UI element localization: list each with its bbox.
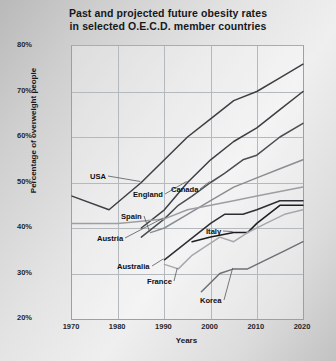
series-label-england: England	[133, 190, 163, 199]
leader-line-australia	[152, 259, 163, 266]
series-label-australia: Australia	[117, 262, 150, 271]
chart-figure: Past and projected future obesity rates …	[0, 0, 336, 361]
series-label-france: France	[147, 277, 172, 286]
series-label-spain: Spain	[121, 212, 142, 221]
series-label-italy: Italy	[206, 227, 221, 236]
leader-line-korea	[224, 268, 233, 300]
leader-line-spain	[144, 216, 150, 232]
series-label-usa: USA	[90, 172, 106, 181]
label-leader-lines	[0, 0, 336, 361]
leader-line-italy	[223, 231, 233, 232]
series-label-korea: Korea	[200, 296, 222, 305]
leader-line-france	[174, 268, 177, 281]
leader-line-usa	[108, 176, 140, 182]
leader-line-canada	[200, 182, 210, 190]
series-label-canada: Canada	[171, 185, 198, 194]
series-label-austria: Austria	[97, 234, 123, 243]
